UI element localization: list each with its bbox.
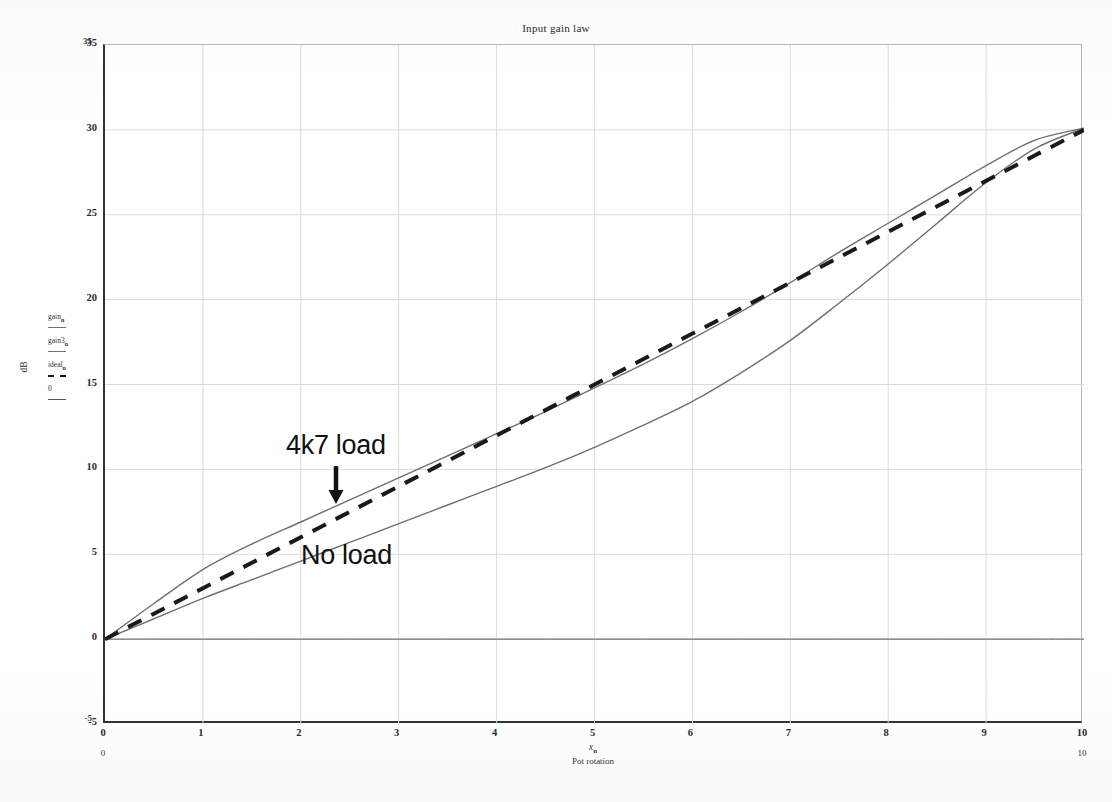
x-tick-7: 7	[768, 727, 808, 738]
y-tick-5: 5	[63, 546, 97, 557]
legend-swatch-zero	[48, 399, 66, 400]
x-axis-max-limit: 10	[1067, 748, 1097, 758]
x-tick-4: 4	[475, 727, 515, 738]
annotation-no-load: No load	[301, 540, 392, 571]
y-tick-0: 0	[63, 631, 97, 642]
x-tick-8: 8	[866, 727, 906, 738]
legend-label-ideal: idealn	[48, 360, 94, 373]
x-tick-9: 9	[964, 727, 1004, 738]
y-tick-25: 25	[63, 207, 97, 218]
x-tick-5: 5	[573, 727, 613, 738]
annotation-arrow-down-icon	[325, 466, 347, 504]
y-axis-title: dB	[19, 361, 29, 372]
x-tick-3: 3	[377, 727, 417, 738]
legend-label-gain: gainn	[48, 312, 94, 325]
y-tick-20: 20	[63, 292, 97, 303]
plot-canvas	[105, 45, 1084, 724]
x-tick-2: 2	[279, 727, 319, 738]
plot-area	[103, 44, 1082, 723]
y-tick-30: 30	[63, 122, 97, 133]
annotation-4k7-load: 4k7 load	[286, 430, 386, 461]
chart-title: Input gain law	[0, 22, 1112, 34]
legend-entry-gain3: gain3n	[48, 336, 94, 358]
y-tick-15: 15	[63, 377, 97, 388]
trace-legend: gainn gain3n idealn 0	[48, 312, 94, 408]
y-tick-35: 35	[63, 37, 97, 48]
x-axis-min-limit: 0	[88, 748, 118, 758]
legend-swatch-gain3	[48, 351, 66, 352]
x-tick-1: 1	[181, 727, 221, 738]
y-tick-10: 10	[63, 461, 97, 472]
legend-swatch-gain	[48, 327, 66, 328]
x-tick-10: 10	[1062, 727, 1102, 738]
y-tick-neg5: -5	[63, 716, 97, 727]
x-tick-0: 0	[83, 727, 123, 738]
legend-label-gain3: gain3n	[48, 336, 94, 349]
x-tick-6: 6	[670, 727, 710, 738]
chart-page: Input gain law dB gainn gain3n idealn 0 …	[0, 0, 1112, 802]
legend-entry-gain: gainn	[48, 312, 94, 334]
x-axis-title: xnPot rotation	[513, 742, 673, 767]
